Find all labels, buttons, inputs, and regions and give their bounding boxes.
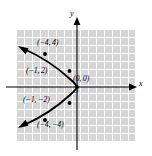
y-axis-label: y — [70, 9, 74, 18]
graph-figure: (−4, 4) (−1, 2) (0, 0) (−1, −2) (−4, −4)… — [0, 0, 152, 156]
x-axis-label: x — [139, 79, 143, 88]
origin-label: O — [73, 87, 78, 95]
point-label-neg1-neg2: (−1, −2) — [23, 95, 50, 104]
point-label-neg4-4: (−4, 4) — [37, 38, 58, 47]
point-label-0-0: (0, 0) — [73, 74, 89, 83]
x-axis — [6, 84, 137, 91]
point-label-neg4-neg4: (−4, −4) — [37, 120, 64, 129]
point-label-neg1-2: (−1, 2) — [26, 66, 47, 75]
